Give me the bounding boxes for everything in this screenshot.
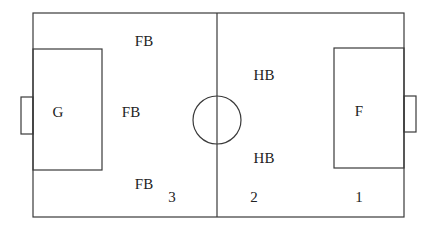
position-hb-top: HB (254, 68, 275, 83)
field-boundary (33, 13, 404, 217)
position-fb-middle: FB (122, 105, 140, 120)
position-hb-bottom: HB (254, 151, 275, 166)
zone-number-2: 2 (250, 190, 258, 205)
left-goal (21, 97, 33, 134)
position-goalkeeper: G (53, 105, 64, 120)
field-lines (0, 0, 434, 227)
left-penalty-box (33, 49, 102, 170)
right-goal (404, 96, 416, 132)
zone-number-3: 3 (168, 190, 176, 205)
position-fb-bottom: FB (135, 177, 153, 192)
position-fb-top: FB (135, 34, 153, 49)
position-forward: F (355, 104, 363, 119)
soccer-field-diagram: FB G FB FB HB HB F 3 2 1 (0, 0, 434, 227)
zone-number-1: 1 (355, 190, 363, 205)
right-penalty-box (334, 48, 404, 168)
